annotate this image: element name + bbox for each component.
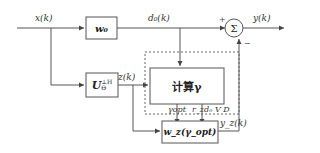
yz-label: y_z(k): [220, 119, 247, 128]
d0-label: d₀(k): [148, 14, 170, 23]
x-label: x(k): [35, 14, 53, 23]
minus-sign: −: [244, 40, 251, 48]
wz-label: w_z(γ_opt): [162, 121, 218, 143]
sum-symbol: Σ: [225, 19, 243, 37]
r-vd-label: r_zd₀ V D: [192, 106, 230, 114]
w0-label: w₀: [86, 17, 117, 39]
y-label: y(k): [253, 14, 271, 23]
u-symbol: U: [92, 79, 102, 92]
gamma-opt-label: γopt: [168, 106, 186, 114]
u-sub: Θ: [101, 85, 112, 91]
plus-sign: +: [219, 16, 226, 24]
z-label: z(k): [118, 73, 135, 82]
compute-gamma-label: 计算γ: [150, 68, 224, 104]
u-perp-label: U ⊥H Θ: [86, 73, 118, 97]
